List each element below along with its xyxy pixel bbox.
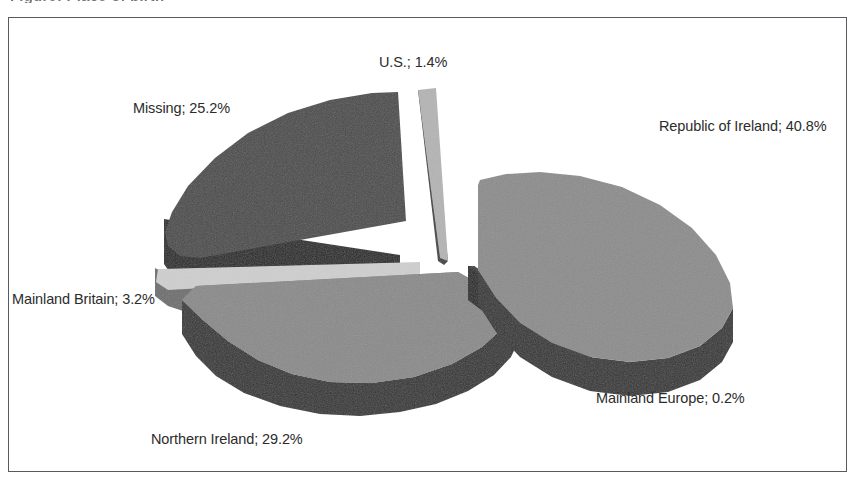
pie-label-northern-ireland: Northern Ireland; 29.2% (151, 432, 303, 448)
pie-label-missing: Missing; 25.2% (133, 101, 230, 117)
pie-label-us: U.S.; 1.4% (379, 55, 447, 71)
pie-label-mainland-europe: Mainland Europe; 0.2% (596, 391, 745, 407)
pie-label-mainland-britain: Mainland Britain; 3.2% (12, 292, 155, 308)
pie-label-republic-of-ireland: Republic of Ireland; 40.8% (659, 119, 826, 135)
pie-chart-figure: Figure: Place of birth (0, 0, 855, 490)
clipped-figure-caption: Figure: Place of birth (10, 0, 430, 3)
